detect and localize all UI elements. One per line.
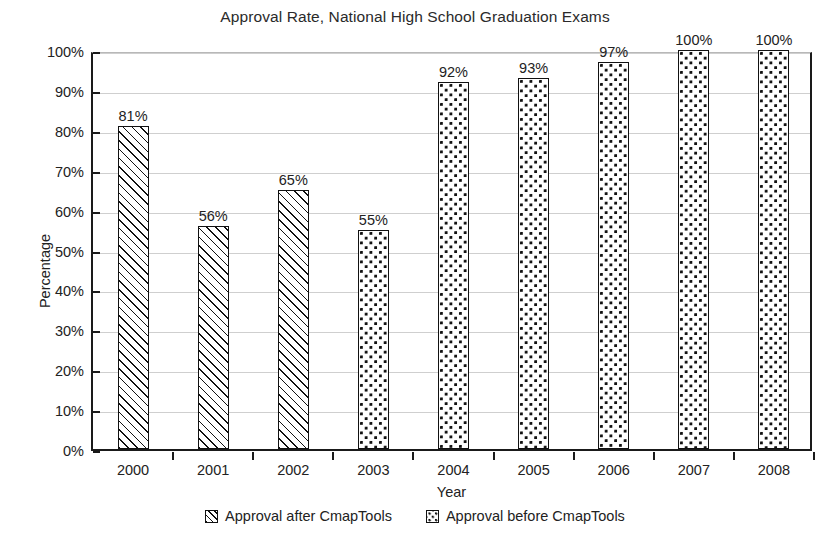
bar: 97% — [598, 62, 629, 449]
y-tick-label: 60% — [26, 204, 84, 220]
y-tick-mark — [93, 172, 100, 174]
y-tick-label: 30% — [26, 323, 84, 339]
legend-label: Approval after CmapTools — [225, 508, 392, 524]
y-tick-mark — [93, 132, 100, 134]
legend-swatch-after-icon — [205, 510, 218, 523]
x-tick-mark — [493, 452, 495, 460]
x-tick-label: 2005 — [494, 462, 574, 478]
y-tick-label: 90% — [26, 84, 84, 100]
y-tick-label: 10% — [26, 403, 84, 419]
y-tick-label: 80% — [26, 124, 84, 140]
bar-value-label: 93% — [519, 60, 548, 76]
bar-value-label: 97% — [599, 44, 628, 60]
x-tick-mark — [733, 452, 735, 460]
x-tick-mark — [813, 452, 815, 460]
y-tick-mark — [93, 411, 100, 413]
bar-value-label: 55% — [359, 212, 388, 228]
legend-item: Approval before CmapTools — [426, 508, 625, 524]
y-tick-mark — [93, 212, 100, 214]
chart-title: Approval Rate, National High School Grad… — [0, 8, 830, 26]
y-tick-mark — [93, 52, 100, 54]
x-tick-label: 2008 — [734, 462, 814, 478]
x-tick-label: 2007 — [654, 462, 734, 478]
x-tick-label: 2000 — [93, 462, 173, 478]
bar: 55% — [358, 230, 389, 449]
x-axis-title: Year — [91, 484, 812, 500]
chart-legend: Approval after CmapToolsApproval before … — [0, 508, 830, 524]
bar-value-label: 100% — [755, 32, 792, 48]
x-tick-mark — [332, 452, 334, 460]
bar: 93% — [518, 78, 549, 449]
x-tick-label: 2004 — [414, 462, 494, 478]
bar: 92% — [438, 82, 469, 449]
bar: 56% — [198, 226, 229, 449]
x-tick-mark — [653, 452, 655, 460]
y-tick-label: 20% — [26, 363, 84, 379]
y-tick-mark — [93, 371, 100, 373]
y-tick-mark — [93, 291, 100, 293]
x-tick-mark — [252, 452, 254, 460]
x-tick-label: 2003 — [333, 462, 413, 478]
bar: 100% — [678, 50, 709, 449]
y-tick-mark — [93, 331, 100, 333]
bar-value-label: 56% — [199, 208, 228, 224]
bar: 100% — [758, 50, 789, 449]
legend-label: Approval before CmapTools — [446, 508, 625, 524]
bar-value-label: 100% — [675, 32, 712, 48]
y-tick-label: 70% — [26, 164, 84, 180]
bar-value-label: 65% — [279, 172, 308, 188]
y-tick-label: 0% — [26, 443, 84, 459]
legend-swatch-before-icon — [426, 510, 439, 523]
y-tick-mark — [93, 451, 100, 453]
x-tick-mark — [172, 452, 174, 460]
x-tick-label: 2001 — [173, 462, 253, 478]
bar: 81% — [118, 126, 149, 449]
y-tick-label: 50% — [26, 244, 84, 260]
bar-value-label: 81% — [119, 108, 148, 124]
plot-area: 0%10%20%30%40%50%60%70%80%90%100% 81%56%… — [91, 52, 812, 451]
x-tick-label: 2002 — [253, 462, 333, 478]
bar-value-label: 92% — [439, 64, 468, 80]
x-tick-label: 2006 — [574, 462, 654, 478]
legend-item: Approval after CmapTools — [205, 508, 392, 524]
x-tick-mark — [573, 452, 575, 460]
y-tick-label: 100% — [26, 44, 84, 60]
x-tick-mark — [412, 452, 414, 460]
y-tick-mark — [93, 92, 100, 94]
y-tick-label: 40% — [26, 283, 84, 299]
y-tick-mark — [93, 252, 100, 254]
bar: 65% — [278, 190, 309, 449]
